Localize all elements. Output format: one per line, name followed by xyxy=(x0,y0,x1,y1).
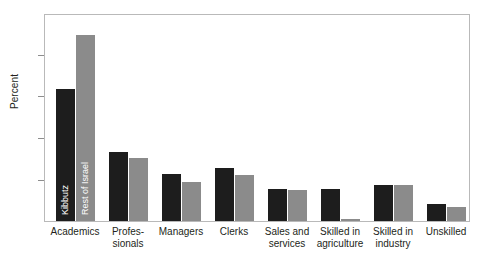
bar-group-unskilled xyxy=(427,14,468,221)
bar-professionals-rest-of-israel[interactable] xyxy=(129,158,148,221)
y-axis-title: Percent xyxy=(9,52,20,132)
bar-group-sales-and-services xyxy=(268,14,309,221)
bar-group-academics: Kibbutz Rest of Israel xyxy=(56,14,97,221)
bar-academics-kibbutz[interactable]: Kibbutz xyxy=(56,89,75,221)
x-tick-label-unskilled: Unskilled xyxy=(411,226,479,238)
bar-skilled-in-agriculture-rest-of-israel[interactable] xyxy=(341,219,360,221)
bar-unskilled-rest-of-israel[interactable] xyxy=(447,207,466,221)
bar-skilled-in-agriculture-kibbutz[interactable] xyxy=(321,189,340,221)
bar-group-skilled-in-agriculture xyxy=(321,14,362,221)
bar-academics-rest-of-israel[interactable]: Rest of Israel xyxy=(76,35,95,221)
bar-sales-and-services-kibbutz[interactable] xyxy=(268,189,287,221)
bar-chart-figure: Percent 50 40 30 20 10 0 Kibbutz Rest of… xyxy=(0,0,479,258)
bar-sales-and-services-rest-of-israel[interactable] xyxy=(288,190,307,221)
bar-managers-kibbutz[interactable] xyxy=(162,174,181,221)
bar-clerks-rest-of-israel[interactable] xyxy=(235,175,254,221)
plot-area: Kibbutz Rest of Israel xyxy=(44,14,470,222)
bar-unskilled-kibbutz[interactable] xyxy=(427,204,446,221)
x-tick-label-line1: Unskilled xyxy=(411,226,479,238)
bar-group-skilled-in-industry xyxy=(374,14,415,221)
bar-skilled-in-industry-rest-of-israel[interactable] xyxy=(394,185,413,221)
bar-group-clerks xyxy=(215,14,256,221)
bar-skilled-in-industry-kibbutz[interactable] xyxy=(374,185,393,221)
x-tick-label-line2: sionals xyxy=(93,238,163,250)
bar-group-managers xyxy=(162,14,203,221)
bar-managers-rest-of-israel[interactable] xyxy=(182,182,201,221)
bar-clerks-kibbutz[interactable] xyxy=(215,168,234,221)
bar-professionals-kibbutz[interactable] xyxy=(109,152,128,221)
x-tick-label-line2: industry xyxy=(358,238,428,250)
bar-group-professionals xyxy=(109,14,150,221)
